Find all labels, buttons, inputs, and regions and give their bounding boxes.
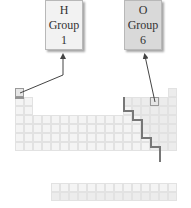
arrow-to-h-callout — [20, 56, 63, 93]
metal-nonmetal-staircase — [124, 97, 160, 162]
connector-lines — [0, 0, 191, 208]
arrow-to-o-callout — [145, 56, 155, 102]
